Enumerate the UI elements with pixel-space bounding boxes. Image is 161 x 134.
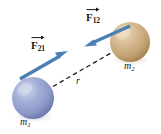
force-label-F12: F 12 xyxy=(86,12,100,25)
distance-label-r: r xyxy=(76,76,80,86)
mass-label-m1: m1 xyxy=(20,117,31,129)
force-label-F21-symbol: F xyxy=(31,39,38,51)
mass-sphere-m2 xyxy=(110,22,150,62)
mass-label-m1-subscript: 1 xyxy=(27,121,31,129)
mass-label-m2: m2 xyxy=(124,61,135,73)
force-label-F21-subscript: 21 xyxy=(38,44,45,53)
force-label-F21: F 21 xyxy=(31,40,45,53)
force-label-F12-subscript: 12 xyxy=(93,16,100,25)
gravitation-diagram: F 12 F 21 m1 m2 r xyxy=(0,0,161,134)
vector-F-glyph: F xyxy=(31,40,38,51)
force-label-F12-symbol: F xyxy=(86,11,93,23)
mass-sphere-m1 xyxy=(12,77,54,119)
vector-F-glyph: F xyxy=(86,12,93,23)
figure-canvas xyxy=(0,0,161,134)
mass-label-m2-subscript: 2 xyxy=(131,65,135,73)
force-vector-F21 xyxy=(20,51,68,79)
